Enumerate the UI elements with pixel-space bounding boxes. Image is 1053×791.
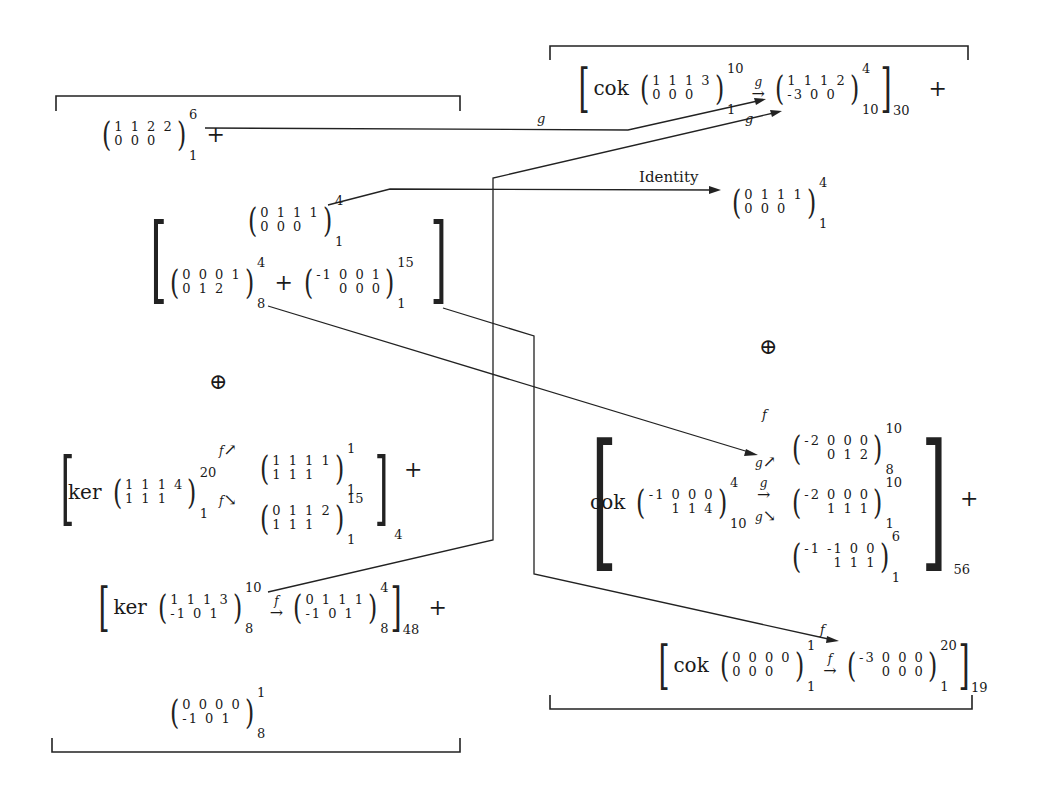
superscript: 4 — [257, 256, 265, 269]
matrix-row: 0 1 1 2 — [272, 504, 331, 518]
cok-group-mid-arrow-3: g↘ — [752, 510, 779, 523]
matrix-row: 0 0 0 1 — [182, 268, 241, 282]
matrix-row: -1 0 1 — [305, 607, 364, 621]
matrix-row: 1 1 1 2 — [787, 74, 846, 88]
cok-label: cok — [673, 653, 712, 677]
arrow-ne-icon: ↗ — [763, 452, 776, 471]
superscript: 4 — [819, 176, 827, 189]
arrowhead-identity — [709, 186, 721, 194]
subscript: 1 — [819, 217, 827, 230]
cok-group-bottom-arrow: f→ — [820, 654, 839, 676]
cok-group-bottom-target: ( -3 0 0 00 0 0 ) 201 — [845, 645, 957, 685]
arrow-right-icon: → — [757, 489, 770, 500]
subscript: 1 — [347, 533, 364, 546]
matrix-row: -1 0 0 1 — [316, 268, 382, 282]
superscript: 20 — [200, 466, 217, 479]
matrix-row: -1 0 1 — [170, 607, 229, 621]
matrix-bottom-right: ( -1 0 0 10 0 0 ) 151 — [302, 262, 414, 302]
plus-operator: + — [400, 457, 426, 482]
matrix-row: 1 1 1 — [804, 556, 876, 570]
superscript: 6 — [189, 108, 197, 121]
subscript: 8 — [245, 622, 262, 635]
superscript: 1 — [257, 686, 265, 699]
cok-group-top: [ cok ( 1 1 1 30 0 0 ) 101 g→ ( 1 1 1 2-… — [574, 66, 951, 118]
plus-operator: + — [915, 76, 951, 101]
ker-group-1-lower-arrow: f↘ — [216, 494, 240, 507]
plus-operator: + — [270, 270, 296, 295]
arrow-right-icon: → — [270, 607, 283, 618]
cok-group-mid-source: cok ( -1 0 0 01 1 4 ) 410 — [590, 482, 746, 522]
subscript: 1 — [807, 680, 815, 693]
arrow-label: g — [755, 510, 763, 524]
superscript: 10 — [885, 476, 902, 489]
ker-group-1-target-lower: ( 0 1 1 21 1 1 ) 151 — [258, 498, 364, 538]
ker-label: ker — [68, 480, 106, 504]
right-top-brace — [550, 46, 968, 60]
superscript: 15 — [347, 492, 364, 505]
matrix-bottom-left: ( 0 0 0 10 1 2 ) 48 — [168, 262, 265, 302]
superscript: 6 — [892, 530, 900, 543]
cok-group-bottom-source: ( 0 0 0 00 0 0 ) 11 — [718, 645, 815, 685]
cok-group-mid-target-2: ( -2 0 0 01 1 1 ) 101 — [790, 482, 902, 522]
arrowhead-f-bottom — [826, 636, 839, 643]
left-bottom-brace — [52, 738, 460, 752]
subscript: 8 — [257, 297, 265, 310]
matrix-row: 0 0 0 — [114, 134, 173, 148]
bracket-group-bottom-row: ( 0 0 0 10 1 2 ) 48 + ( -1 0 0 10 0 0 ) … — [168, 262, 414, 302]
connector-identity — [328, 189, 715, 205]
matrix-row: 0 0 0 — [744, 202, 803, 216]
subscript: 1 — [189, 149, 197, 162]
ker-group-2-target: ( 0 1 1 1-1 0 1 ) 48 — [291, 587, 388, 627]
superscript: 1 — [347, 442, 355, 455]
arrow-label: g — [755, 456, 763, 470]
right-bottom-brace — [550, 695, 972, 709]
ker-group-2: [ ker ( 1 1 1 3-1 0 1 ) 108 f→ ( 0 1 1 1… — [94, 585, 451, 637]
matrix-row: 1 1 1 — [272, 468, 331, 482]
matrix-row: -1 -1 0 0 — [804, 542, 876, 556]
superscript: 4 — [335, 194, 343, 207]
cok-group-top-target: ( 1 1 1 2-3 0 0 ) 410 — [773, 68, 879, 108]
superscript: 4 — [730, 476, 747, 489]
matrix-row: 0 0 0 0 — [182, 698, 241, 712]
identity-target: ( 0 1 1 10 0 0 ) 41 — [730, 182, 827, 222]
plus-operator: + — [424, 595, 450, 620]
superscript: 15 — [397, 256, 414, 269]
bracket-subscript: 48 — [403, 622, 420, 637]
subscript: 10 — [862, 103, 879, 116]
plus-operator: + — [956, 486, 982, 511]
left-top-brace — [56, 96, 460, 111]
subscript: 1 — [397, 297, 414, 310]
direct-sum-icon: ⊕ — [759, 334, 777, 359]
connector-label-identity: Identity — [639, 168, 698, 186]
left-bottom-term: ( 0 0 0 0-1 0 1 ) 18 — [168, 692, 265, 732]
cok-group-bottom: [ cok ( 0 0 0 00 0 0 ) 11 f→ ( -3 0 0 00… — [654, 643, 988, 695]
superscript: 10 — [885, 422, 902, 435]
matrix-row: 1 1 4 — [649, 502, 715, 516]
connector-label-f-mid: f — [762, 407, 767, 422]
connector-label-g-upper: g — [537, 111, 545, 126]
cok-group-mid-target-1: ( -2 0 0 00 1 2 ) 108 — [790, 428, 902, 468]
bracket-group-top-matrix: ( 0 1 1 10 0 0 ) 41 — [246, 200, 343, 240]
matrix-row: 0 1 1 1 — [305, 593, 364, 607]
superscript: 10 — [245, 581, 262, 594]
subscript: 8 — [257, 727, 265, 740]
matrix-row: 0 0 0 — [732, 665, 791, 679]
arrow-se-icon: ↘ — [223, 490, 236, 509]
arrow-right-icon: → — [823, 665, 836, 676]
arrow-ne-icon: ↗ — [223, 440, 236, 459]
arrow-right-icon: → — [752, 88, 765, 99]
cok-label: cok — [590, 490, 629, 514]
matrix-row: 0 1 1 1 — [744, 188, 803, 202]
cok-group-mid-target-3: ( -1 -1 0 01 1 1 ) 61 — [790, 536, 900, 576]
matrix-row: 1 1 1 3 — [652, 74, 711, 88]
matrix-row: 1 1 1 1 — [272, 454, 331, 468]
bracket-subscript: 4 — [394, 527, 402, 542]
left-bracket-close: ] — [420, 210, 457, 306]
matrix-row: -3 0 0 0 — [859, 651, 925, 665]
cok-group-mid-arrow-2: g→ — [754, 478, 773, 500]
matrix-row: 0 0 0 — [316, 282, 382, 296]
matrix-row: 1 1 1 — [804, 502, 870, 516]
matrix-row: -1 0 1 — [182, 712, 241, 726]
matrix-row: 1 1 2 2 — [114, 120, 173, 134]
plus-operator: + — [202, 122, 228, 147]
